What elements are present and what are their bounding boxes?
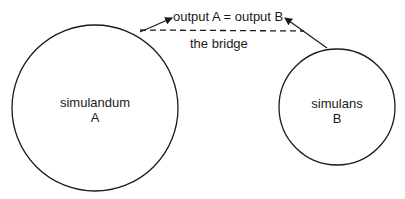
simulans-label: simulans B bbox=[287, 96, 387, 126]
simulans-letter: B bbox=[287, 111, 387, 126]
bridge-label: the bridge bbox=[190, 36, 248, 51]
equation-label: output A = output B bbox=[173, 9, 283, 24]
simulans-name: simulans bbox=[287, 96, 387, 111]
arrow-b-to-output bbox=[285, 18, 327, 48]
simulandum-label: simulandum A bbox=[45, 95, 145, 125]
bridge-dashed-line bbox=[140, 30, 304, 31]
simulandum-name: simulandum bbox=[45, 95, 145, 110]
simulandum-letter: A bbox=[45, 110, 145, 125]
